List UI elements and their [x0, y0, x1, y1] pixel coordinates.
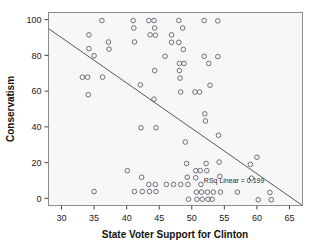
rsq-annotation: RSq Linear = 0.199 — [204, 177, 265, 185]
y-tick-label: 100 — [26, 15, 41, 25]
y-tick-label: 20 — [31, 158, 41, 168]
x-tick-label: 30 — [57, 213, 67, 223]
x-tick-label: 50 — [187, 213, 197, 223]
y-tick-label: 80 — [31, 51, 41, 61]
x-axis-title: State Voter Support for Clinton — [102, 229, 248, 240]
x-tick-label: 65 — [284, 213, 294, 223]
y-axis-title: Conservatism — [5, 76, 16, 142]
annotation-group: RSq Linear = 0.199 — [204, 177, 265, 185]
y-tick-label: 60 — [31, 86, 41, 96]
y-tick-label: 0 — [36, 194, 41, 204]
x-tick-label: 60 — [252, 213, 262, 223]
plot-area-background — [49, 13, 303, 206]
x-tick-label: 35 — [89, 213, 99, 223]
y-tick-label: 40 — [31, 122, 41, 132]
x-tick-label: 40 — [122, 213, 132, 223]
x-tick-label: 55 — [219, 213, 229, 223]
scatter-plot-figure: 3035404550556065 020406080100 RSq Linear… — [0, 0, 315, 250]
x-tick-label: 45 — [154, 213, 164, 223]
chart-canvas: 3035404550556065 020406080100 RSq Linear… — [0, 0, 315, 250]
